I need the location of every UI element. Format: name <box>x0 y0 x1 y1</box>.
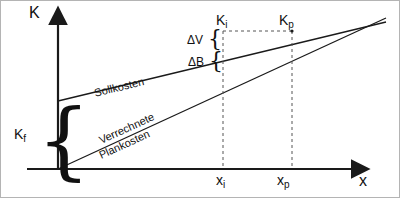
figure-container: K x xi xp Ki Kp ΔV { ΔB { Kf { Sollkoste… <box>0 0 400 198</box>
delta-b-brace: { <box>209 50 223 72</box>
delta-b-label: ΔB <box>188 56 204 68</box>
point-label-kp-subscript: p <box>288 19 294 30</box>
kf-label: Kf <box>14 127 26 141</box>
point-label-ki: Ki <box>216 13 228 27</box>
tick-label-xi: xi <box>216 173 225 187</box>
tick-label-xi-base: x <box>216 172 223 188</box>
tick-label-xi-subscript: i <box>223 179 225 190</box>
tick-label-xp-subscript: p <box>284 179 290 190</box>
kf-brace: { <box>37 98 90 182</box>
tick-label-xp: xp <box>277 173 290 187</box>
x-axis-label: x <box>359 173 367 189</box>
y-axis-label: K <box>29 5 40 21</box>
delta-v-brace: { <box>208 28 222 50</box>
kf-label-subscript: f <box>23 133 26 144</box>
tick-label-xp-base: x <box>277 172 284 188</box>
point-label-kp: Kp <box>279 13 294 27</box>
point-label-ki-subscript: i <box>225 19 227 30</box>
delta-v-label: ΔV <box>187 34 203 46</box>
kf-label-base: K <box>14 126 23 142</box>
point-label-kp-base: K <box>279 12 288 28</box>
